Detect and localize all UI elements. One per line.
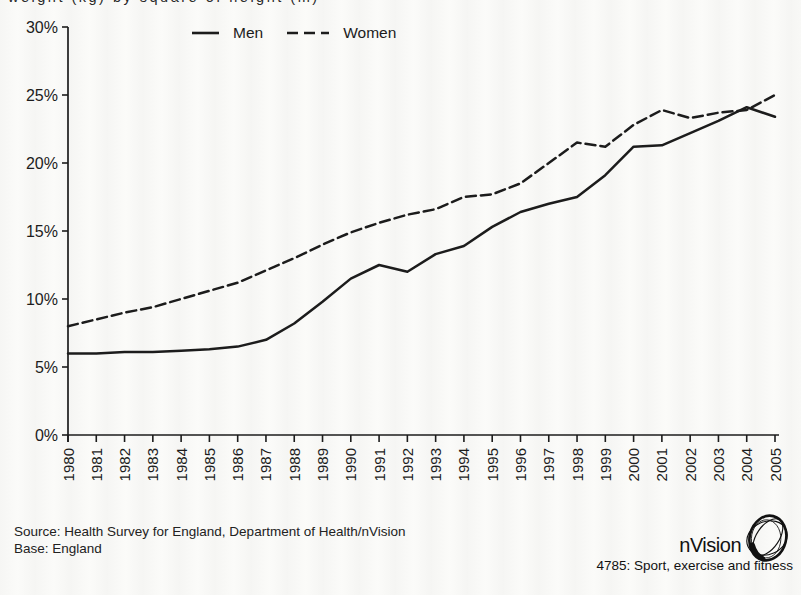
men-line-sample bbox=[192, 29, 219, 37]
base-line: Base: England bbox=[14, 540, 405, 557]
y-axis-label: 5% bbox=[35, 359, 58, 376]
x-axis-label: 1995 bbox=[484, 448, 501, 481]
legend-men-label: Men bbox=[233, 24, 263, 42]
y-axis-label: 15% bbox=[26, 223, 58, 240]
x-axis-label: 2005 bbox=[767, 448, 784, 481]
legend-women-label: Women bbox=[343, 24, 396, 42]
scanned-chart-page: weight (kg) by square of height (m) 0%5%… bbox=[0, 0, 801, 595]
y-axis-label: 20% bbox=[26, 155, 58, 172]
nvision-logo-row: nVision bbox=[513, 512, 793, 564]
women-line bbox=[68, 95, 775, 326]
x-axis-label: 1991 bbox=[371, 448, 388, 481]
x-axis-label: 1982 bbox=[116, 448, 133, 481]
x-axis-label: 1992 bbox=[399, 448, 416, 481]
x-axis-label: 2004 bbox=[738, 448, 755, 481]
nvision-swirl-icon bbox=[741, 512, 793, 564]
chart-id-caption: 4785: Sport, exercise and fitness bbox=[513, 558, 793, 573]
x-axis-label: 2003 bbox=[710, 448, 727, 481]
y-axis-label: 30% bbox=[26, 19, 58, 36]
x-axis-label: 1984 bbox=[173, 448, 190, 481]
x-axis-label: 1996 bbox=[512, 448, 529, 481]
x-axis-label: 1988 bbox=[286, 448, 303, 481]
x-axis-label: 1983 bbox=[144, 448, 161, 481]
women-line-sample bbox=[287, 29, 329, 37]
x-axis-label: 1987 bbox=[257, 448, 274, 481]
x-axis-label: 1989 bbox=[314, 448, 331, 481]
chart-footer: Source: Health Survey for England, Depar… bbox=[14, 523, 405, 557]
x-axis-label: 1999 bbox=[597, 448, 614, 481]
y-axis-label: 0% bbox=[35, 427, 58, 444]
x-axis-label: 2001 bbox=[653, 448, 670, 481]
nvision-branding: nVision 4785: Sport, exercise and fitnes… bbox=[513, 512, 793, 573]
x-axis-label: 1986 bbox=[229, 448, 246, 481]
chart-legend: Men Women bbox=[192, 24, 396, 42]
y-axis-label: 10% bbox=[26, 291, 58, 308]
x-axis-label: 1980 bbox=[60, 448, 77, 481]
men-line bbox=[68, 107, 775, 353]
x-axis-label: 1994 bbox=[455, 448, 472, 481]
source-line: Source: Health Survey for England, Depar… bbox=[14, 523, 405, 540]
obesity-trend-chart: 0%5%10%15%20%25%30%198019811982198319841… bbox=[0, 0, 801, 510]
x-axis-label: 1998 bbox=[569, 448, 586, 481]
x-axis-label: 1990 bbox=[342, 448, 359, 481]
x-axis-label: 1997 bbox=[540, 448, 557, 481]
x-axis-label: 1985 bbox=[201, 448, 218, 481]
x-axis-label: 2000 bbox=[625, 448, 642, 481]
x-axis-label: 2002 bbox=[682, 448, 699, 481]
x-axis-label: 1993 bbox=[427, 448, 444, 481]
x-axis-label: 1981 bbox=[88, 448, 105, 481]
y-axis-label: 25% bbox=[26, 87, 58, 104]
